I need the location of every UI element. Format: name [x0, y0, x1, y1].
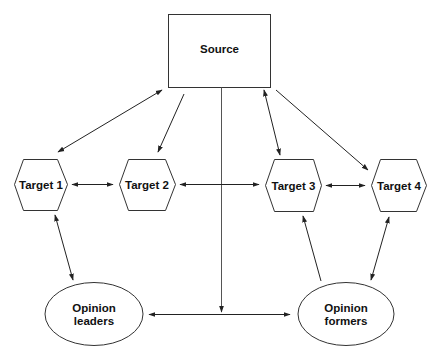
target-3-node: Target 3: [266, 160, 322, 212]
target-2-node: Target 2: [120, 160, 176, 211]
edge-source-target3: [264, 90, 280, 155]
opinion-leaders-label-line2: leaders: [74, 315, 114, 327]
source-node: Source: [169, 15, 271, 88]
edge-source-target1: [58, 90, 162, 152]
source-label: Source: [200, 43, 239, 55]
target-1-label: Target 1: [19, 179, 63, 191]
opinion-formers-ellipse: [298, 283, 394, 346]
edge-target1-opinion-leaders: [55, 215, 73, 280]
target-3-label: Target 3: [272, 180, 316, 192]
target-1-node: Target 1: [15, 160, 68, 211]
opinion-formers-label-line1: Opinion: [324, 302, 367, 314]
opinion-formers-node: Opinion formers: [298, 283, 394, 346]
communication-flow-diagram: Source Target 1 Target 2 Target 3 Target…: [0, 0, 438, 360]
opinion-leaders-ellipse: [45, 283, 143, 346]
opinion-formers-label-line2: formers: [325, 315, 368, 327]
edge-source-target2: [158, 94, 184, 152]
edge-opinion-formers-target3: [303, 216, 321, 281]
target-2-label: Target 2: [125, 179, 169, 191]
edge-source-target4: [276, 90, 368, 170]
edge-target4-opinion-formers: [371, 217, 389, 280]
opinion-leaders-node: Opinion leaders: [45, 283, 143, 346]
opinion-leaders-label-line1: Opinion: [72, 302, 115, 314]
target-4-label: Target 4: [377, 180, 421, 192]
target-4-node: Target 4: [372, 160, 427, 212]
